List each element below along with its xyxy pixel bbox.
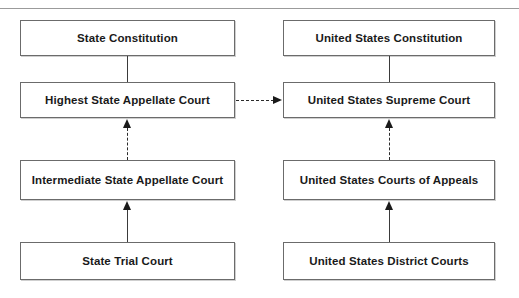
node-united-states-supreme-court[interactable]: United States Supreme Court [283, 82, 495, 118]
node-label: State Trial Court [76, 255, 179, 268]
connector-us-courts-of-appeals-to-us-supreme-court [389, 128, 390, 160]
node-state-constitution[interactable]: State Constitution [20, 20, 235, 56]
connector-us-district-courts-to-us-courts-of-appeals [389, 210, 390, 242]
node-highest-state-appellate-court[interactable]: Highest State Appellate Court [20, 82, 235, 118]
node-united-states-courts-of-appeals[interactable]: United States Courts of Appeals [283, 160, 495, 200]
node-label: United States Courts of Appeals [294, 174, 484, 187]
arrowhead-up-icon [385, 119, 393, 128]
node-label: State Constitution [71, 32, 184, 45]
node-united-states-constitution[interactable]: United States Constitution [283, 20, 495, 56]
header-divider [0, 8, 519, 9]
connector-us-constitution-to-us-supreme-court [389, 56, 390, 82]
connector-state-constitution-to-highest-state-appellate-court [127, 56, 128, 82]
arrowhead-up-icon [385, 201, 393, 210]
node-united-states-district-courts[interactable]: United States District Courts [283, 242, 495, 280]
arrowhead-right-icon [273, 96, 282, 104]
connector-state-trial-to-intermediate-appellate-court [127, 210, 128, 242]
node-label: United States District Courts [303, 255, 474, 268]
node-label: Intermediate State Appellate Court [26, 174, 229, 187]
arrowhead-up-icon [123, 119, 131, 128]
node-label: United States Supreme Court [302, 94, 476, 107]
connector-highest-state-appellate-court-to-us-supreme-court [236, 100, 274, 101]
connector-intermediate-to-highest-state-appellate-court [127, 128, 128, 160]
node-label: Highest State Appellate Court [39, 94, 216, 107]
court-system-diagram: State Constitution Highest State Appella… [0, 0, 519, 298]
node-label: United States Constitution [310, 32, 469, 45]
node-state-trial-court[interactable]: State Trial Court [20, 242, 235, 280]
node-intermediate-state-appellate-court[interactable]: Intermediate State Appellate Court [20, 160, 235, 200]
arrowhead-up-icon [123, 201, 131, 210]
